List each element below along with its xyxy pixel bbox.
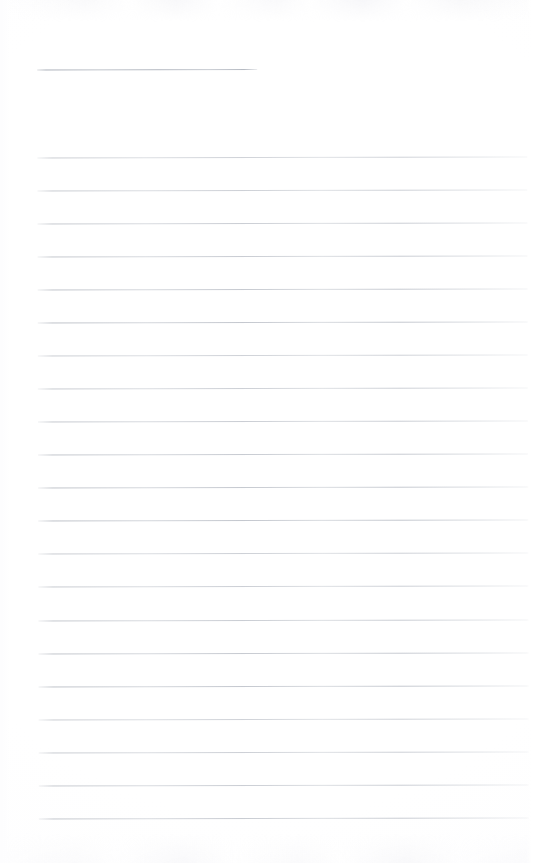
ruled-line — [39, 718, 529, 720]
ruled-line — [37, 156, 527, 158]
ruled-line — [38, 255, 528, 257]
ruled-line — [38, 288, 528, 290]
ruled-lines-layer — [0, 0, 534, 863]
ruled-line — [38, 453, 528, 455]
ruled-line — [38, 552, 528, 554]
ruled-line — [39, 685, 529, 687]
ruled-line — [38, 354, 528, 356]
ruled-line — [38, 222, 528, 224]
ruled-line — [38, 420, 528, 422]
ruled-line — [37, 189, 527, 191]
ruled-line — [39, 817, 529, 819]
ruled-line — [38, 486, 528, 488]
ruled-line-group — [0, 0, 533, 1]
ruled-line — [39, 784, 529, 786]
ruled-line — [39, 652, 529, 654]
ruled-line — [38, 387, 528, 389]
ruled-line — [38, 585, 528, 587]
scanned-page — [0, 0, 534, 863]
ruled-line — [38, 321, 528, 323]
title-rule — [37, 69, 257, 70]
ruled-line — [38, 619, 528, 621]
ruled-line — [39, 751, 529, 753]
ruled-line — [38, 519, 528, 521]
